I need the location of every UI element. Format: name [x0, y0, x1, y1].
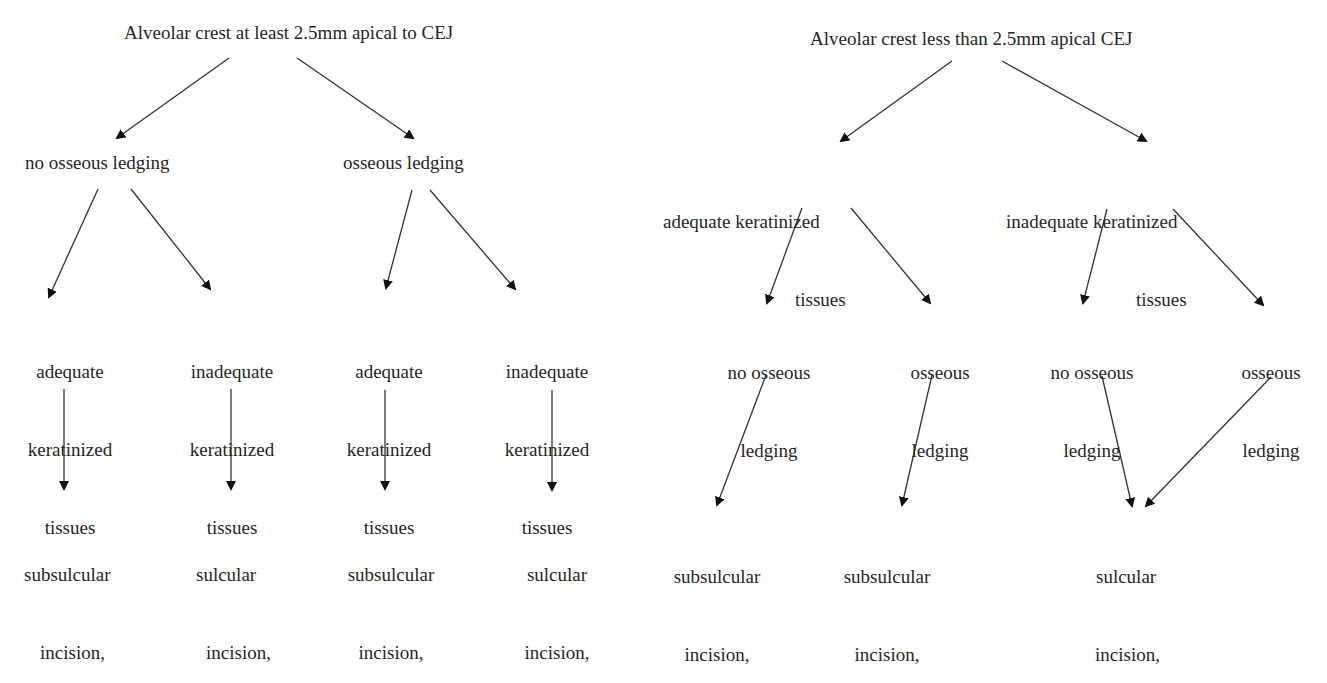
- text-line: keratinized: [492, 437, 602, 463]
- text-line: subsulcular: [24, 562, 142, 588]
- text-line: ledging: [714, 438, 824, 464]
- right-level2-ledging-2: osseous ledging: [1229, 308, 1313, 490]
- text-line: subsulcular: [835, 564, 939, 590]
- right-level2-no-ledging-2: no osseous ledging: [1037, 308, 1147, 490]
- text-line: sulcular: [489, 562, 625, 588]
- arrow: [386, 190, 412, 288]
- text-line: incision,: [24, 640, 142, 666]
- text-line: inadequate: [177, 359, 287, 385]
- right-root-node: Alveolar crest less than 2.5mm apical CE…: [810, 26, 1132, 52]
- arrow: [430, 190, 515, 289]
- text-line: ledging: [1229, 438, 1313, 464]
- text-line: ledging: [898, 438, 982, 464]
- text-line: keratinized: [20, 437, 120, 463]
- text-line: incision,: [835, 642, 939, 668]
- arrow-right-root-to-inadequate: [1002, 61, 1146, 141]
- right-outcome-2: subsulcular incision, osseous resection,…: [835, 512, 939, 683]
- arrow-right-root-to-adequate: [841, 61, 952, 141]
- text-line: incision,: [652, 642, 782, 668]
- right-level2-ledging-1: osseous ledging: [898, 308, 982, 490]
- arrow-left-root-to-ledging: [297, 58, 413, 138]
- text-line: adequate: [335, 359, 443, 385]
- text-line: incision,: [177, 640, 290, 666]
- left-outcome-2: sulcular incision, no osseous resection,…: [177, 510, 290, 683]
- text-line: adequate keratinized: [663, 209, 846, 235]
- right-outcome-3: sulcular incision, osseous resection, ap…: [1070, 512, 1183, 683]
- text-line: adequate: [20, 359, 120, 385]
- text-line: inadequate: [492, 359, 602, 385]
- left-outcome-1: subsulcular incision, scalpel or laser, …: [24, 510, 142, 683]
- text-line: sulcular: [1070, 564, 1183, 590]
- left-level1-no-osseous-ledging: no osseous ledging: [25, 150, 170, 176]
- text-line: sulcular: [177, 562, 290, 588]
- text-line: osseous: [1229, 360, 1313, 386]
- arrow-left-root-to-no-ledging: [117, 58, 229, 138]
- text-line: ledging: [1037, 438, 1147, 464]
- right-level2-no-ledging-1: no osseous ledging: [714, 308, 824, 490]
- text-line: inadequate keratinized: [1006, 209, 1187, 235]
- arrow: [131, 189, 210, 289]
- left-level1-osseous-ledging: osseous ledging: [343, 150, 464, 176]
- text-line: keratinized: [177, 437, 287, 463]
- text-line: keratinized: [335, 437, 443, 463]
- text-line: incision,: [1070, 642, 1183, 668]
- arrow: [851, 208, 930, 303]
- text-line: incision,: [489, 640, 625, 666]
- left-outcome-3: subsulcular incision, osseous resection,…: [338, 510, 444, 683]
- text-line: no osseous: [1037, 360, 1147, 386]
- text-line: osseous: [898, 360, 982, 386]
- text-line: incision,: [338, 640, 444, 666]
- left-outcome-4: sulcular incision, osseous resection, ap…: [489, 510, 625, 683]
- right-outcome-1: subsulcular incision, piezosurgery, no f…: [652, 512, 782, 683]
- text-line: subsulcular: [652, 564, 782, 590]
- text-line: no osseous: [714, 360, 824, 386]
- left-root-node: Alveolar crest at least 2.5mm apical to …: [124, 20, 453, 46]
- arrow: [49, 189, 98, 297]
- text-line: subsulcular: [338, 562, 444, 588]
